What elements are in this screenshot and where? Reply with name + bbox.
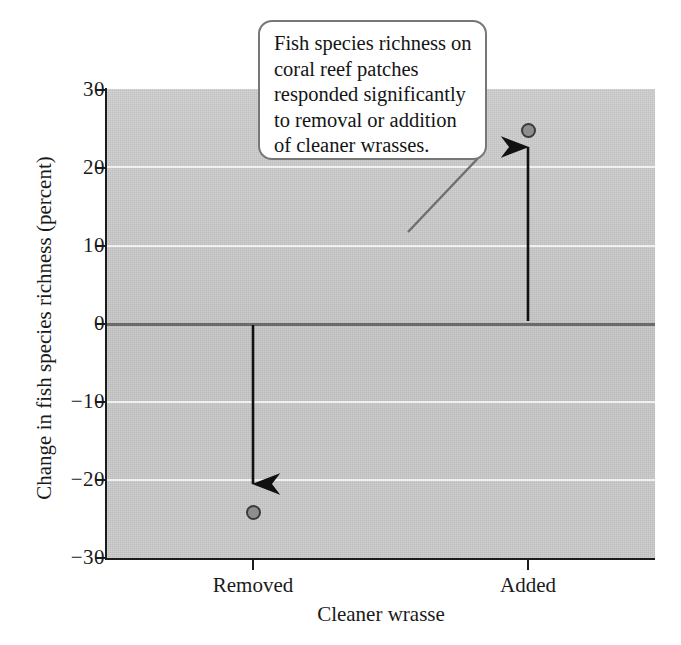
callout-line-1: Fish species richness on	[274, 31, 473, 57]
y-tick-label-0: 0	[53, 313, 105, 334]
callout-line-5: of cleaner wrasses.	[274, 133, 473, 159]
chart-figure: 30 20 10 0 −10 −20 −30 Removed Added Cle…	[0, 0, 681, 645]
y-axis-title: Change in fish species richness (percent…	[32, 93, 56, 563]
x-axis-title: Cleaner wrasse	[107, 602, 655, 626]
callout-line-2: coral reef patches	[274, 57, 473, 83]
x-axis-line	[105, 558, 655, 560]
y-tick-label-minus-20: −20	[53, 469, 105, 490]
callout-box: Fish species richness on coral reef patc…	[258, 20, 487, 160]
x-tick-label-added: Added	[448, 573, 608, 597]
y-tick-label-minus-10: −10	[53, 391, 105, 412]
y-tick-label-20: 20	[53, 157, 105, 178]
y-tick-label-minus-30: −30	[53, 547, 105, 568]
datapoint-added	[521, 123, 536, 138]
callout-line-3: responded significantly	[274, 82, 473, 108]
datapoint-removed	[246, 505, 261, 520]
x-tick-mark-removed	[252, 560, 254, 570]
callout-line-4: to removal or addition	[274, 108, 473, 134]
y-tick-label-30: 30	[53, 79, 105, 100]
callout-text: Fish species richness on coral reef patc…	[274, 31, 473, 159]
x-tick-mark-added	[527, 560, 529, 570]
callout-leader-line	[390, 150, 500, 250]
y-axis-line	[105, 88, 107, 560]
x-tick-label-removed: Removed	[173, 573, 333, 597]
y-tick-label-10: 10	[53, 235, 105, 256]
